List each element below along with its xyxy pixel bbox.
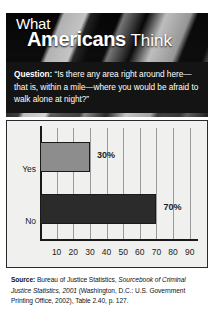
x-tick-label: 90 <box>185 247 194 257</box>
x-axis-tick-labels: 102030405060708090 <box>40 247 198 259</box>
bar-value-yes: 30% <box>97 150 115 160</box>
what-americans-think-figure: What Americans Think Question: “Is there… <box>0 0 214 331</box>
source-note: Source: Bureau of Justice Statistics, So… <box>11 275 205 307</box>
x-tick-label: 70 <box>152 247 161 257</box>
banner-title-line2: Americans Think <box>27 29 172 49</box>
question-box: Question: “Is there any area right aroun… <box>6 62 208 113</box>
bar-row: 70% <box>40 194 198 224</box>
x-tick-label: 80 <box>168 247 177 257</box>
banner-title: What Americans Think <box>16 16 172 50</box>
banner-title-americans: Americans <box>27 28 126 50</box>
x-tick-label: 60 <box>135 247 144 257</box>
x-axis-line <box>40 239 198 241</box>
x-tick-label: 50 <box>118 247 127 257</box>
bar-row: 30% <box>40 142 198 172</box>
bar-chart-panel: 30% 70% Yes No 102030405060708090 <box>6 120 208 268</box>
bar-no <box>40 194 156 224</box>
question-label: Question: <box>14 69 52 79</box>
banner-title-think: Think <box>126 31 172 50</box>
source-label: Source: <box>11 276 35 283</box>
bar-yes <box>40 142 90 172</box>
source-part1: Bureau of Justice Statistics, <box>35 276 118 283</box>
x-tick-label: 40 <box>102 247 111 257</box>
category-label-no: No <box>10 216 36 226</box>
x-tick-label: 20 <box>69 247 78 257</box>
category-label-yes: Yes <box>10 164 36 174</box>
x-tick-label: 30 <box>85 247 94 257</box>
plot-area: 30% 70% Yes No <box>40 128 198 241</box>
bar-value-no: 70% <box>163 202 181 212</box>
x-tick-label: 10 <box>52 247 61 257</box>
